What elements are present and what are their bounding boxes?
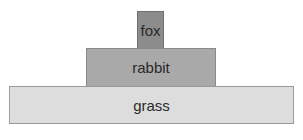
pyramid-level-grass: grass [9, 86, 294, 124]
level-label: grass [133, 97, 170, 114]
pyramid-level-fox: fox [137, 11, 164, 49]
level-label: fox [140, 22, 160, 39]
level-label: rabbit [132, 59, 170, 76]
pyramid-level-rabbit: rabbit [86, 48, 216, 87]
